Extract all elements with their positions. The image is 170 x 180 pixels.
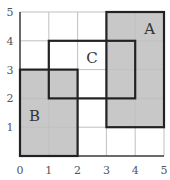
- y-tick: 4: [7, 35, 14, 48]
- region-label-A: A: [143, 20, 155, 38]
- y-tick: 1: [7, 121, 14, 134]
- region-label-C: C: [86, 49, 97, 67]
- y-tick: 2: [7, 92, 14, 105]
- y-tick: 3: [7, 64, 14, 77]
- y-tick: 5: [7, 6, 14, 19]
- x-tick: 1: [45, 164, 52, 177]
- x-tick: 5: [161, 164, 168, 177]
- x-tick: 4: [132, 164, 139, 177]
- grid-diagram: ABC 01234512345: [0, 0, 170, 180]
- region-label-B: B: [29, 107, 40, 125]
- x-tick: 3: [103, 164, 110, 177]
- x-tick: 0: [17, 164, 24, 177]
- x-tick: 2: [74, 164, 81, 177]
